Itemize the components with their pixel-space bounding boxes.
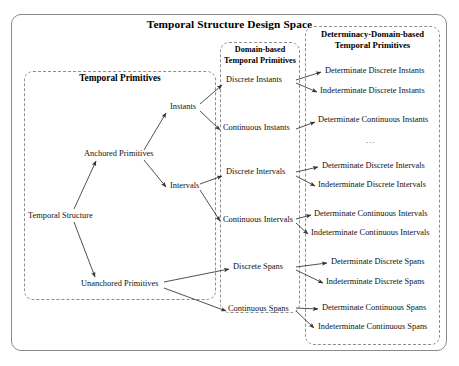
group-heading-determinacy-line1: Determinacy-Domain-based <box>305 29 440 40</box>
node-determinate-continuous-instants[interactable]: Determinate Continuous Instants <box>318 115 428 124</box>
group-heading-determinacy-domain-based: Determinacy-Domain-based Temporal Primit… <box>305 29 440 50</box>
group-heading-determinacy-line2: Temporal Primitives <box>305 40 440 51</box>
node-determinate-discrete-intervals[interactable]: Determinate Discrete Intervals <box>322 161 425 170</box>
node-indeterminate-discrete-intervals[interactable]: Indeterminate Discrete Intervals <box>318 180 426 189</box>
node-anchored-primitives[interactable]: Anchored Primitives <box>84 149 154 158</box>
node-continuous-spans[interactable]: Continuous Spans <box>228 304 289 313</box>
node-unanchored-primitives[interactable]: Unanchored Primitives <box>81 279 158 288</box>
node-determinate-continuous-spans[interactable]: Determinate Continuous Spans <box>322 303 426 312</box>
node-discrete-instants[interactable]: Discrete Instants <box>226 75 282 84</box>
node-determinate-continuous-intervals[interactable]: Determinate Continuous Intervals <box>314 209 428 218</box>
node-indeterminate-discrete-instants[interactable]: Indeterminate Discrete Instants <box>320 86 425 95</box>
group-heading-domain-based-line2: Temporal Primitives <box>220 56 300 67</box>
node-continuous-intervals[interactable]: Continuous Intervals <box>223 215 293 224</box>
node-indeterminate-continuous-spans[interactable]: Indeterminate Continuous Spans <box>318 322 427 331</box>
group-heading-temporal-primitives: Temporal Primitives <box>24 73 216 84</box>
node-determinate-discrete-spans[interactable]: Determinate Discrete Spans <box>331 257 425 266</box>
node-intervals[interactable]: Intervals <box>170 181 199 190</box>
node-indeterminate-continuous-intervals[interactable]: Indeterminate Continuous Intervals <box>311 228 430 237</box>
node-discrete-spans[interactable]: Discrete Spans <box>233 262 283 271</box>
node-temporal-structure[interactable]: Temporal Structure <box>28 211 93 220</box>
node-indeterminate-discrete-spans[interactable]: Indeterminate Discrete Spans <box>326 277 425 286</box>
node-instants[interactable]: Instants <box>170 102 196 111</box>
node-discrete-intervals[interactable]: Discrete Intervals <box>226 167 285 176</box>
node-ellipsis: ... <box>366 136 375 145</box>
group-heading-domain-based: Domain-based Temporal Primitives <box>220 45 300 66</box>
group-heading-domain-based-line1: Domain-based <box>220 45 300 56</box>
diagram-canvas: Temporal Structure Design Space Temporal… <box>0 0 459 366</box>
node-determinate-discrete-instants[interactable]: Determinate Discrete Instants <box>325 66 425 75</box>
node-continuous-instants[interactable]: Continuous Instants <box>223 123 290 132</box>
